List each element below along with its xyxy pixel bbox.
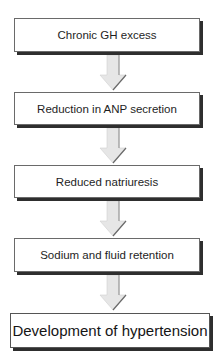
down-arrow-icon: [98, 55, 128, 91]
node-label: Chronic GH excess: [57, 29, 156, 41]
node-reduction-in-anp-secretion: Reduction in ANP secretion: [14, 92, 200, 125]
down-arrow-icon: [98, 128, 128, 164]
node-label: Reduction in ANP secretion: [37, 103, 177, 115]
node-label: Reduced natriuresis: [56, 176, 158, 188]
node-development-of-hypertension: Development of hypertension: [10, 313, 210, 348]
node-reduced-natriuresis: Reduced natriuresis: [14, 165, 200, 198]
down-arrow-icon: [98, 275, 128, 311]
node-label: Sodium and fluid retention: [40, 249, 174, 261]
node-label: Development of hypertension: [12, 322, 207, 339]
node-sodium-and-fluid-retention: Sodium and fluid retention: [14, 238, 200, 272]
node-chronic-gh-excess: Chronic GH excess: [14, 18, 200, 52]
down-arrow-icon: [98, 201, 128, 237]
